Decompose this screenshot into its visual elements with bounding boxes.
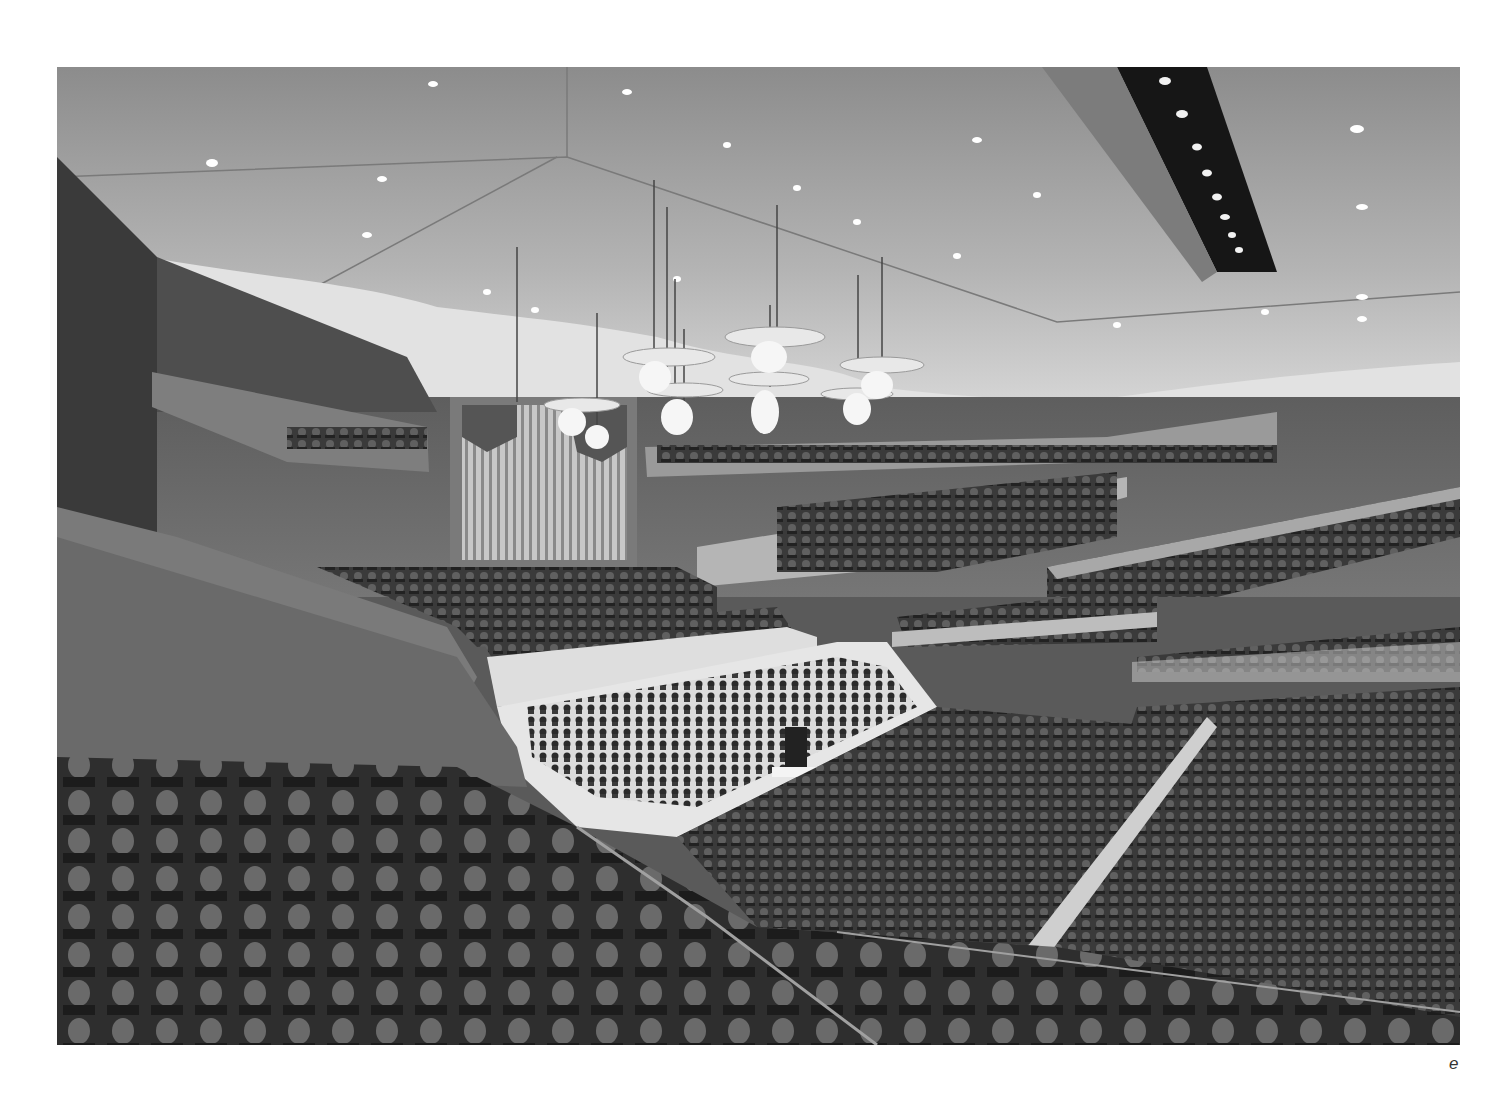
pipe-organ [450,397,637,572]
concert-hall-illustration [57,67,1460,1045]
conductor [785,727,807,769]
concert-hall-rendering [57,67,1460,1045]
figure-caption: e [1449,1054,1458,1074]
